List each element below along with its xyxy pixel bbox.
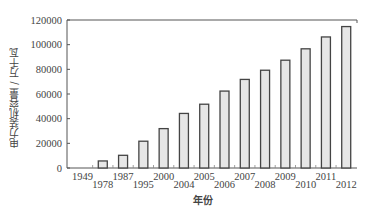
bar-2000 bbox=[159, 129, 168, 168]
x-tick-label: 2012 bbox=[336, 179, 357, 190]
bar-chart: 0200004000060000800001000001200001949197… bbox=[0, 0, 373, 219]
y-tick-label: 100000 bbox=[31, 39, 63, 50]
bar-1978 bbox=[98, 161, 107, 168]
x-tick-label: 2007 bbox=[234, 171, 255, 182]
bar-2007 bbox=[240, 79, 249, 168]
y-tick-label: 20000 bbox=[36, 138, 62, 149]
bar-2011 bbox=[321, 37, 330, 168]
x-tick-label: 1987 bbox=[113, 171, 134, 182]
bar-1995 bbox=[139, 141, 148, 168]
bar-2010 bbox=[301, 49, 310, 168]
bar-2006 bbox=[220, 91, 229, 168]
y-tick-label: 0 bbox=[57, 163, 62, 174]
bar-2012 bbox=[342, 27, 351, 168]
bar-2008 bbox=[261, 70, 270, 168]
x-tick-label: 2009 bbox=[275, 171, 296, 182]
x-tick-label: 2004 bbox=[173, 179, 195, 190]
bar-2009 bbox=[281, 60, 290, 168]
bar-2005 bbox=[200, 104, 209, 168]
x-tick-label: 1949 bbox=[72, 171, 93, 182]
x-tick-label: 2008 bbox=[255, 179, 276, 190]
x-tick-label: 2011 bbox=[316, 171, 337, 182]
y-tick-label: 60000 bbox=[36, 89, 62, 100]
bar-2004 bbox=[179, 113, 188, 168]
bar-1987 bbox=[119, 155, 128, 168]
y-tick-label: 40000 bbox=[36, 113, 62, 124]
x-tick-label: 2010 bbox=[295, 179, 316, 190]
y-axis-label: 电力装机容量 / 万千瓦 bbox=[7, 48, 27, 148]
chart-canvas: 0200004000060000800001000001200001949197… bbox=[0, 0, 373, 219]
x-tick-label: 2006 bbox=[214, 179, 235, 190]
x-tick-label: 2005 bbox=[194, 171, 215, 182]
x-tick-label: 2000 bbox=[153, 171, 174, 182]
x-axis-label: 年份 bbox=[188, 192, 218, 207]
x-tick-label: 1995 bbox=[133, 179, 154, 190]
y-tick-label: 80000 bbox=[36, 64, 62, 75]
x-tick-label: 1978 bbox=[92, 179, 113, 190]
y-tick-label: 120000 bbox=[31, 15, 63, 26]
